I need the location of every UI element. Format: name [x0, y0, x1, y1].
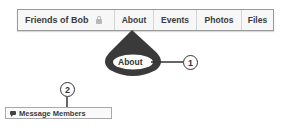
tab-files[interactable]: Files — [241, 10, 273, 30]
tab-photos-label: Photos — [205, 15, 234, 25]
speech-bubble-icon — [10, 111, 16, 115]
tab-photos[interactable]: Photos — [196, 10, 241, 30]
tab-events[interactable]: Events — [153, 10, 196, 30]
group-name-tab[interactable]: Friends of Bob — [18, 10, 114, 30]
group-tab-bar: Friends of Bob About Events Photos Files — [17, 9, 274, 31]
message-members-label: Message Members — [19, 109, 86, 118]
lock-icon — [96, 19, 102, 24]
callout-number-1-text: 1 — [188, 58, 193, 68]
callout-number-2: 2 — [60, 82, 75, 97]
tab-about-label: About — [122, 15, 147, 25]
tab-events-label: Events — [161, 15, 189, 25]
group-name: Friends of Bob — [25, 15, 89, 25]
tab-about[interactable]: About — [114, 10, 153, 30]
message-members-button[interactable]: Message Members — [5, 107, 112, 119]
callout-number-1: 1 — [183, 55, 198, 70]
about-callout-label: About — [118, 57, 143, 67]
tab-files-label: Files — [248, 15, 267, 25]
callout-number-2-text: 2 — [65, 85, 70, 95]
